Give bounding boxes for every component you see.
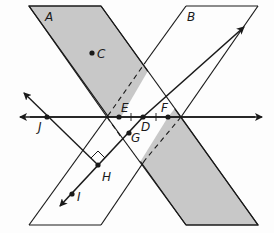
line-jh <box>24 93 98 165</box>
point-d <box>140 114 145 119</box>
point-i <box>69 191 74 196</box>
point-e <box>116 114 121 119</box>
point-e-label: E <box>121 101 129 115</box>
point-g-label: G <box>131 131 140 145</box>
point-j-label: J <box>36 120 42 134</box>
plane-a-label: A <box>44 10 53 24</box>
point-d-label: D <box>141 120 150 134</box>
point-h <box>95 162 100 167</box>
geometry-diagram: A B C D E F G H I J <box>0 0 274 233</box>
diagram-canvas: A B C D E F G H I J <box>0 0 274 233</box>
plane-b-label: B <box>187 10 195 24</box>
point-j <box>44 114 49 119</box>
point-i-label: I <box>77 190 81 204</box>
point-c-label: C <box>97 47 106 61</box>
point-h-label: H <box>102 170 111 184</box>
point-f <box>165 114 170 119</box>
point-c <box>89 50 94 55</box>
point-f-label: F <box>161 101 169 115</box>
